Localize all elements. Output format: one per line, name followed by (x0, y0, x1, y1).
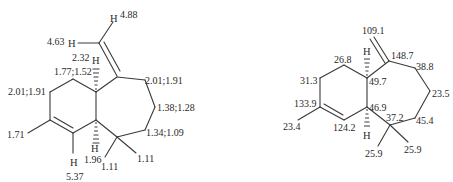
label-methyl-b: 25.9 (404, 144, 422, 155)
bond-7ring-5 (96, 120, 117, 137)
bond-ring-methyl (28, 120, 50, 133)
label-h-olefin: 5.37 (66, 171, 84, 182)
bond-methyl-b (117, 137, 136, 153)
label-c-fusion-top: 49.7 (369, 76, 387, 87)
label-c-b: 23.5 (432, 88, 450, 99)
bond-6ring-5 (73, 120, 96, 133)
bond-7ring-6 (96, 77, 117, 92)
label-c-fusion-bottom: 46.9 (369, 102, 387, 113)
label-c-olefin-h: 124.2 (333, 122, 356, 133)
label-ch2-c: 2.01;1.91 (145, 75, 183, 86)
diagram-canvas: H H H H H 4.88 4.63 2.32 1.77;1.52 2.01;… (0, 0, 453, 182)
label-c-a: 38.8 (416, 61, 434, 72)
label-c-exo: 148.7 (391, 50, 414, 61)
atom-h-vinyl-b: H (68, 38, 76, 49)
atom-h-fusion-bottom: H (363, 130, 371, 141)
label-ch2-a: 1.77;1.52 (54, 66, 92, 77)
label-h-fusion-top: 2.32 (72, 52, 90, 63)
bond-methyl-b (390, 125, 408, 142)
bond-7ring-1 (117, 77, 145, 80)
bond-exo-double-1 (99, 43, 117, 76)
hashed-wedge-top (364, 59, 370, 75)
label-methyl-a: 25.9 (365, 148, 383, 159)
label-h-vinyl-b: 4.63 (47, 36, 65, 47)
bond-6ring-1 (73, 79, 96, 92)
label-c-ring-a: 26.8 (334, 54, 352, 65)
bond-methyl-a (105, 137, 117, 157)
hashed-wedge-bottom (93, 123, 100, 143)
label-ch2-e: 1.34;1.09 (146, 127, 184, 138)
bond-7ring-3 (415, 91, 430, 118)
label-h-fusion-bottom: 1.96 (84, 154, 102, 165)
bond-6ring-4-double (54, 117, 73, 128)
atom-h-vinyl-a: H (110, 13, 118, 24)
label-h-vinyl-a: 4.88 (120, 9, 138, 20)
label-c-olefin-sub: 133.9 (294, 98, 317, 109)
label-c-c: 45.4 (416, 115, 434, 126)
atom-h-fusion-top: H (363, 46, 371, 57)
bond-6ring-5 (344, 107, 367, 120)
bond-6ring-4-double (324, 104, 343, 115)
label-methyl-a: 1.11 (101, 161, 118, 172)
bond-7ring-1 (389, 61, 415, 68)
bond-6ring-1 (344, 65, 367, 78)
right-structure: H H 109.1 148.7 38.8 23.5 45.4 37.2 49.7… (283, 25, 450, 159)
left-structure: H H H H H 4.88 4.63 2.32 1.77;1.52 2.01;… (7, 9, 195, 182)
bond-7ring-4 (117, 130, 145, 137)
atom-h-fusion-bottom: H (91, 143, 99, 154)
bond-ch2-h-a (99, 22, 113, 43)
label-c-ring-b: 31.3 (300, 75, 318, 86)
label-ch2-b: 2.01;1.91 (8, 86, 46, 97)
hashed-wedge-top (93, 69, 100, 89)
atom-h-olefin: H (70, 157, 78, 168)
label-c-quat: 37.2 (386, 112, 404, 123)
bond-6ring-2 (50, 79, 73, 92)
label-exo-ch2: 109.1 (362, 25, 385, 36)
label-methyl-ring: 23.4 (283, 121, 301, 132)
label-methyl-b: 1.11 (137, 153, 154, 164)
label-methyl-ring: 1.71 (7, 129, 25, 140)
bond-6ring-2 (320, 65, 344, 78)
label-ch2-d: 1.38;1.28 (157, 102, 195, 113)
atom-h-fusion-top: H (92, 55, 100, 66)
bond-methyl-a (378, 125, 390, 146)
